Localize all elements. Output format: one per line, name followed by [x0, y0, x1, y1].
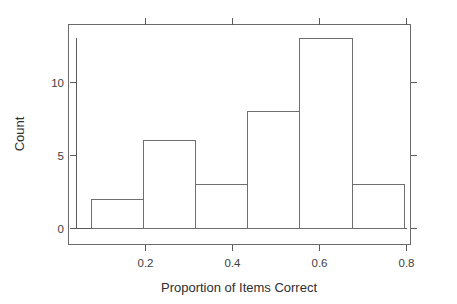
- x-tick-marks-top: [146, 18, 407, 25]
- x-tick-marks-bottom: [146, 245, 407, 252]
- x-tick-label-0p2: 0.2: [138, 257, 154, 269]
- histogram-bar: [300, 39, 352, 229]
- y-tick-label-5: 5: [58, 150, 64, 162]
- x-tick-label-0p8: 0.8: [399, 257, 415, 269]
- histogram-bars: [91, 39, 404, 229]
- histogram-bar: [91, 199, 143, 228]
- x-tick-labels: 0.2 0.4 0.6 0.8: [138, 257, 415, 269]
- y-tick-label-0: 0: [58, 223, 64, 235]
- y-tick-marks-right: [411, 83, 418, 229]
- histogram-bar: [143, 141, 195, 229]
- x-tick-label-0p6: 0.6: [312, 257, 328, 269]
- plot-frame-box: [69, 25, 411, 245]
- y-tick-label-10: 10: [51, 77, 64, 89]
- x-tick-label-0p4: 0.4: [225, 257, 242, 269]
- axis-titles: Proportion of Items Correct Count: [12, 116, 317, 295]
- y-tick-marks-left: [70, 83, 77, 229]
- y-axis-title: Count: [12, 116, 27, 151]
- histogram-canvas: 0 5 10 0.2 0.4 0.6 0.8 Proportion of Ite…: [0, 0, 457, 304]
- histogram-bar: [248, 112, 300, 229]
- histogram-figure: 0 5 10 0.2 0.4 0.6 0.8 Proportion of Ite…: [0, 0, 457, 304]
- histogram-bar: [352, 185, 404, 229]
- y-tick-labels: 0 5 10: [51, 77, 64, 235]
- histogram-bar: [196, 185, 248, 229]
- x-axis-title: Proportion of Items Correct: [161, 280, 317, 295]
- plot-frame: [69, 25, 411, 245]
